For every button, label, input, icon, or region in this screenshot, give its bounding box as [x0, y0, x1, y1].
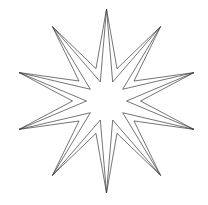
- background: [0, 0, 208, 205]
- star-figure: [0, 0, 208, 205]
